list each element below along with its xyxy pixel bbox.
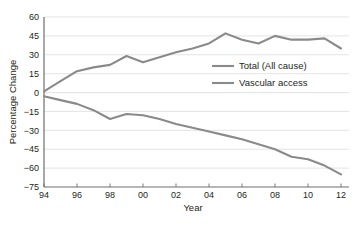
- x-tick-label: 04: [204, 190, 214, 200]
- y-axis-title: Percentage Change: [7, 60, 18, 145]
- y-tick-label: 0: [34, 88, 39, 98]
- legend-label-1: Total (All cause): [239, 60, 307, 71]
- chart-container: 604530150−15−30−45−60−75 949698000204060…: [0, 0, 353, 229]
- axis-lines: [44, 17, 349, 187]
- x-axis-tick-labels: 94969800020406081012: [39, 190, 346, 200]
- x-tick-label: 08: [270, 190, 280, 200]
- x-axis-title: Year: [183, 202, 202, 213]
- x-tick-label: 96: [72, 190, 82, 200]
- x-tick-label: 12: [336, 190, 346, 200]
- x-tick-label: 00: [138, 190, 148, 200]
- y-axis-tick-labels: 604530150−15−30−45−60−75: [24, 12, 39, 192]
- series-line-2: [44, 96, 341, 174]
- y-tick-label: −60: [24, 163, 39, 173]
- y-tick-label: 30: [29, 50, 39, 60]
- x-tick-label: 94: [39, 190, 49, 200]
- x-tick-label: 06: [237, 190, 247, 200]
- y-tick-label: 45: [29, 31, 39, 41]
- x-tick-label: 10: [303, 190, 313, 200]
- line-chart: 604530150−15−30−45−60−75 949698000204060…: [0, 0, 353, 229]
- y-tick-label: −30: [24, 126, 39, 136]
- legend-label-2: Vascular access: [239, 77, 308, 88]
- y-tick-label: −45: [24, 144, 39, 154]
- y-tick-label: 60: [29, 12, 39, 22]
- y-tick-label: 15: [29, 69, 39, 79]
- y-tick-label: −15: [24, 107, 39, 117]
- y-tick-label: −75: [24, 182, 39, 192]
- x-tick-label: 98: [105, 190, 115, 200]
- x-tick-label: 02: [171, 190, 181, 200]
